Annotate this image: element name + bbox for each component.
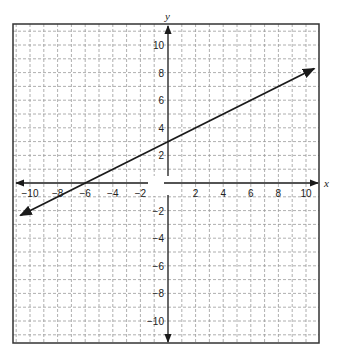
y-axis-label: y (164, 10, 170, 22)
y-tick-label: −4 (153, 233, 165, 244)
y-tick-label: 4 (158, 123, 164, 134)
x-tick-label: −4 (107, 188, 119, 199)
x-tick-label: 2 (193, 188, 199, 199)
x-tick-label: −2 (135, 188, 147, 199)
x-tick-label: −6 (79, 188, 91, 199)
y-tick-label: 8 (158, 68, 164, 79)
x-tick-label: −10 (22, 188, 39, 199)
x-tick-label: 6 (248, 188, 254, 199)
y-tick-label: 6 (158, 95, 164, 106)
y-tick-label: −2 (153, 206, 165, 217)
y-tick-label: 2 (158, 150, 164, 161)
origin-gap (149, 176, 165, 196)
x-tick-label: 8 (276, 188, 282, 199)
y-tick-label: 10 (153, 40, 165, 51)
y-tick-label: −6 (153, 261, 165, 272)
coordinate-plane: −10−8−6−4−2246810−10−8−6−4−2246810 x y (0, 0, 337, 353)
x-axis-label: x (323, 177, 329, 189)
y-tick-label: −10 (147, 316, 164, 327)
x-tick-label: 4 (220, 188, 226, 199)
axes (16, 26, 318, 342)
y-tick-label: −8 (153, 288, 165, 299)
x-tick-label: 10 (300, 188, 312, 199)
